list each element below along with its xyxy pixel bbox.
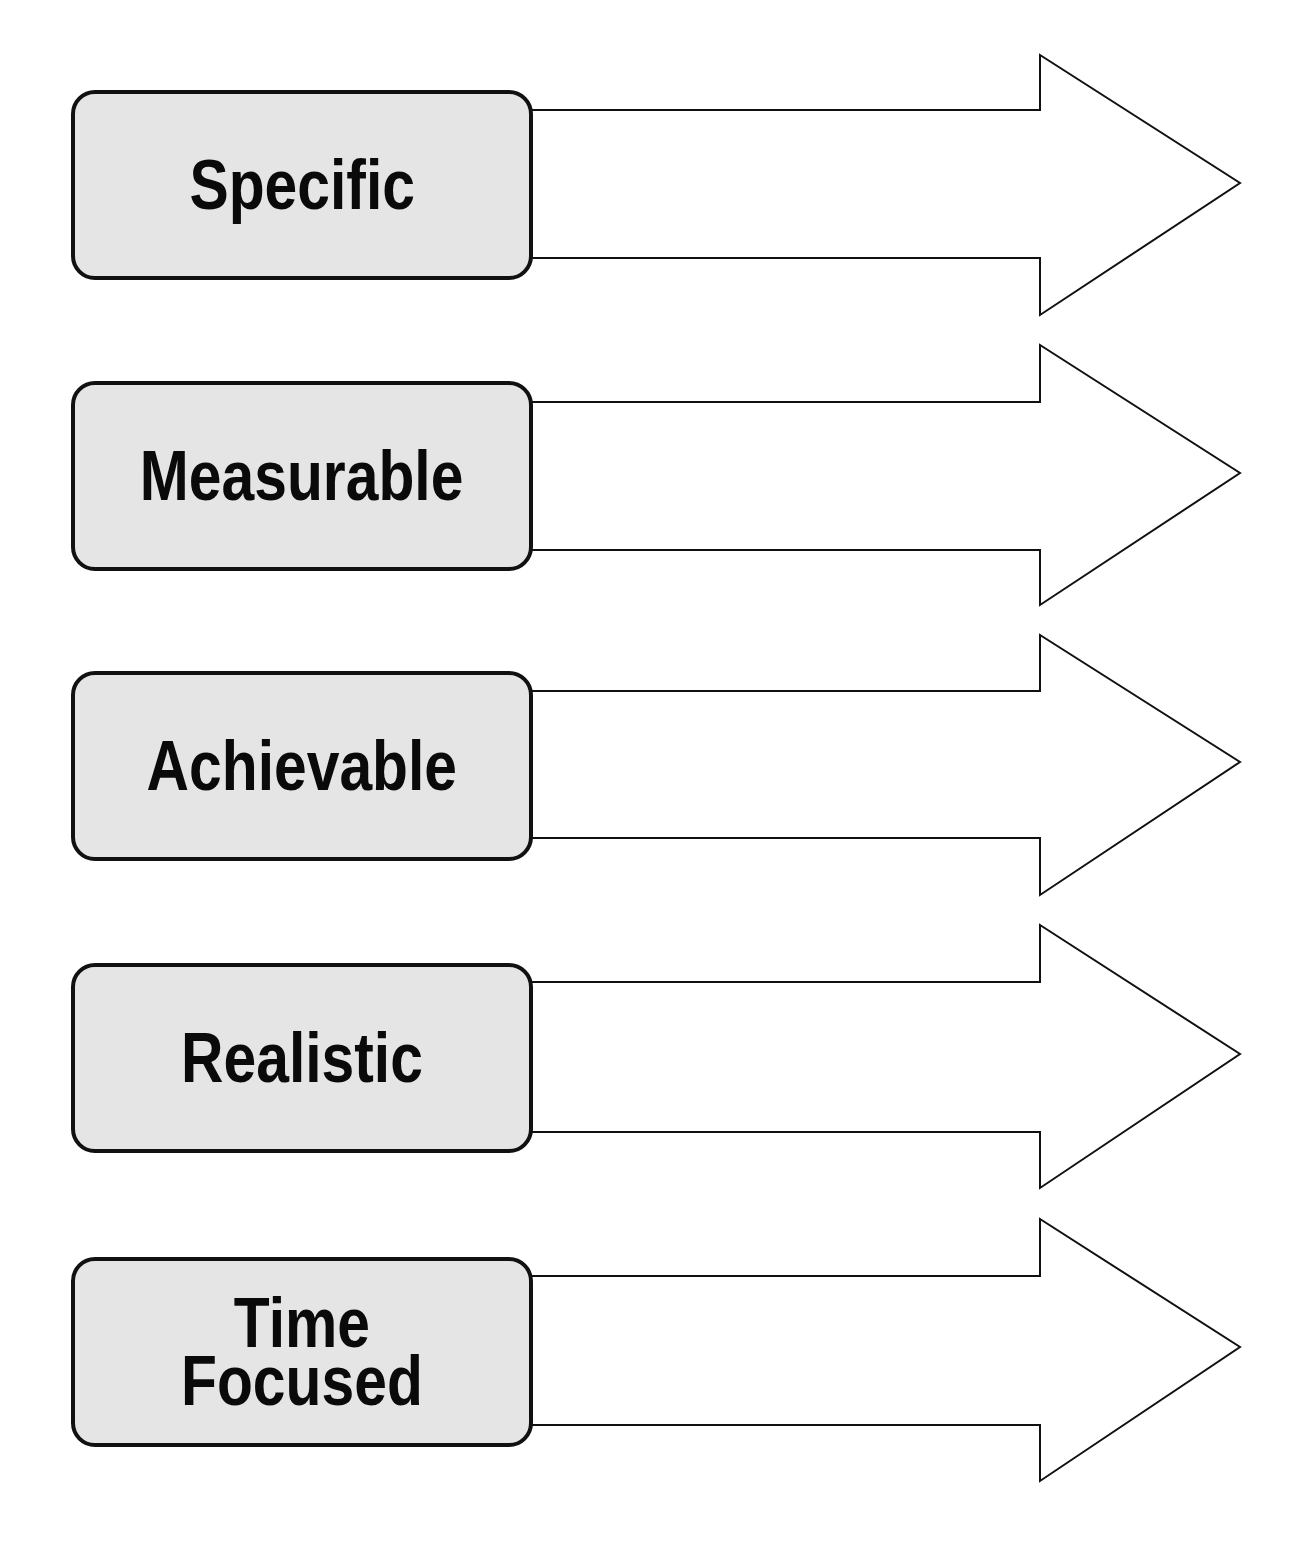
label-text-measurable: Measurable (140, 447, 464, 505)
label-line: Focused (181, 1352, 423, 1410)
arrow-specific[interactable] (531, 55, 1240, 315)
label-box-specific[interactable]: Specific (71, 90, 533, 280)
arrow-realistic[interactable] (531, 925, 1240, 1188)
label-line: Realistic (181, 1029, 423, 1087)
label-line: Achievable (147, 737, 457, 795)
label-text-specific: Specific (189, 156, 415, 214)
label-text-time-focused: Time Focused (181, 1294, 423, 1410)
label-box-measurable[interactable]: Measurable (71, 381, 533, 571)
label-box-time-focused[interactable]: Time Focused (71, 1257, 533, 1447)
label-box-achievable[interactable]: Achievable (71, 671, 533, 861)
arrow-time-focused[interactable] (531, 1219, 1240, 1481)
arrow-achievable[interactable] (531, 635, 1240, 895)
label-text-realistic: Realistic (181, 1029, 423, 1087)
label-box-realistic[interactable]: Realistic (71, 963, 533, 1153)
arrow-measurable[interactable] (531, 345, 1240, 605)
label-line: Measurable (140, 447, 464, 505)
label-text-achievable: Achievable (147, 737, 457, 795)
label-line: Specific (189, 156, 415, 214)
